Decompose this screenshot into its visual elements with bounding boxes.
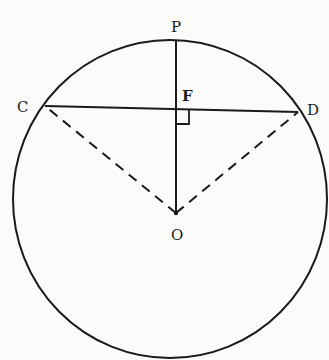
circle [13,40,327,358]
radius-oc-dashed [45,106,176,213]
label-p: P [171,18,181,36]
chord-cd [45,106,298,112]
right-angle-marker [176,110,189,124]
circle-chord-diagram: P F C D O [0,0,329,360]
label-f: F [182,87,193,105]
label-c: C [17,98,28,116]
label-o: O [171,226,183,244]
center-point-o [174,211,178,215]
label-d: D [307,101,319,119]
radius-od-dashed [176,112,298,213]
